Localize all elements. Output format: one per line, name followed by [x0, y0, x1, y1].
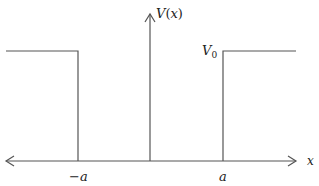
x-axis-label: x [307, 154, 314, 168]
potential-well-diagram: x V(x) V0 −a a [0, 0, 319, 186]
tick-label-neg-a: −a [69, 169, 88, 184]
y-axis [145, 14, 155, 161]
right-barrier [223, 51, 296, 161]
v0-label: V0 [202, 43, 217, 60]
x-axis [6, 156, 296, 166]
tick-label-a: a [219, 169, 227, 184]
y-axis-label: V(x) [156, 6, 183, 21]
left-barrier [6, 51, 78, 161]
